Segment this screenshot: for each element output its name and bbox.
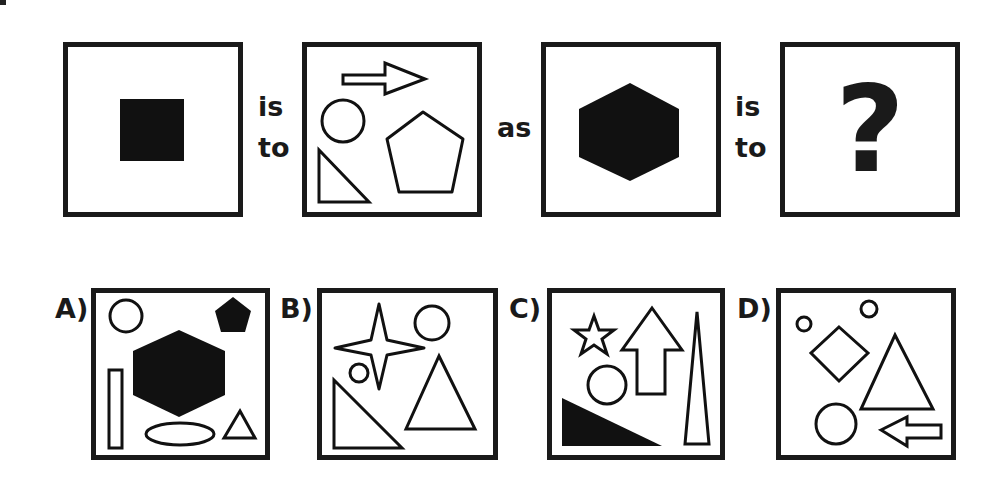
right-triangle-icon — [334, 380, 402, 448]
small-circle-icon — [350, 364, 368, 382]
thin-triangle-icon — [685, 312, 709, 444]
question-panel-3 — [541, 42, 721, 217]
rectangle-icon — [109, 370, 122, 448]
four-point-star-icon — [335, 304, 424, 389]
circle-icon — [415, 306, 449, 340]
filled-hexagon-icon — [133, 330, 225, 417]
question-panel-4: ? — [780, 42, 960, 217]
option-b-panel[interactable] — [317, 288, 498, 460]
filled-hexagon-icon — [546, 47, 716, 212]
to-word-1: to — [258, 134, 289, 161]
is-word-1: is — [258, 93, 283, 120]
filled-right-triangle-icon — [562, 398, 662, 446]
option-c-label: C) — [509, 295, 541, 322]
option-b-label: B) — [280, 295, 313, 322]
option-d-panel[interactable] — [776, 288, 956, 460]
question-panel-1 — [63, 42, 243, 217]
small-circle-icon — [797, 317, 811, 331]
arrow-right-icon — [343, 63, 425, 94]
as-word: as — [497, 114, 531, 141]
star-icon — [574, 316, 614, 354]
circle-icon — [322, 100, 364, 142]
arrow-up-icon — [622, 308, 682, 394]
ellipse-icon — [146, 423, 214, 445]
arrow-left-icon — [881, 417, 941, 446]
option-a-panel[interactable] — [91, 288, 270, 460]
option-d-label: D) — [737, 295, 772, 322]
diamond-icon — [811, 327, 868, 381]
is-word-2: is — [735, 93, 760, 120]
triangle-icon — [406, 356, 475, 429]
question-mark-icon: ? — [785, 47, 955, 212]
pentagon-icon — [387, 112, 463, 192]
option-c-panel[interactable] — [547, 288, 725, 460]
filled-square-icon — [68, 47, 238, 212]
circle-icon — [588, 366, 626, 404]
corner-artifact — [0, 0, 6, 5]
option-a-label: A) — [55, 295, 88, 322]
circle-icon — [816, 404, 856, 444]
circle-icon — [110, 300, 142, 332]
question-panel-2 — [302, 42, 482, 217]
to-word-2: to — [735, 134, 766, 161]
triangle-icon — [861, 335, 933, 409]
small-circle-icon — [861, 301, 877, 317]
triangle-icon — [224, 411, 255, 438]
right-triangle-icon — [319, 150, 369, 202]
filled-pentagon-icon — [215, 297, 251, 332]
